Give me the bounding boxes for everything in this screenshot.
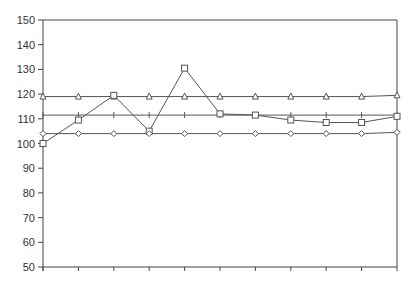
y-tick-label: 50 <box>23 261 35 273</box>
plot-frame <box>43 20 397 267</box>
square-marker-icon <box>182 65 188 71</box>
y-tick-label: 110 <box>17 113 35 125</box>
square-marker-icon <box>40 141 46 147</box>
y-tick-label: 60 <box>23 236 35 248</box>
square-marker-icon <box>359 120 365 126</box>
square-marker-icon <box>75 117 81 123</box>
y-tick-label: 80 <box>23 187 35 199</box>
square-marker-icon <box>217 111 223 117</box>
series-diamond <box>40 129 400 136</box>
diamond-marker-icon <box>394 129 400 135</box>
square-marker-icon <box>111 92 117 98</box>
diamond-marker-icon <box>182 131 188 137</box>
series-triangle <box>40 92 400 99</box>
square-marker-icon <box>394 113 400 119</box>
y-tick-label: 70 <box>23 212 35 224</box>
y-axis: 5060708090100110120130140150 <box>17 14 43 273</box>
diamond-marker-icon <box>288 131 294 137</box>
line-chart: 5060708090100110120130140150 <box>0 0 410 286</box>
y-tick-label: 100 <box>17 138 35 150</box>
square-marker-icon <box>288 117 294 123</box>
y-tick-label: 120 <box>17 88 35 100</box>
diamond-marker-icon <box>323 131 329 137</box>
series-group <box>40 65 400 146</box>
diamond-marker-icon <box>359 131 365 137</box>
diamond-marker-icon <box>40 131 46 137</box>
y-tick-label: 150 <box>17 14 35 26</box>
y-tick-label: 130 <box>17 63 35 75</box>
y-tick-label: 140 <box>17 39 35 51</box>
diamond-marker-icon <box>217 131 223 137</box>
diamond-marker-icon <box>111 131 117 137</box>
diamond-marker-icon <box>75 131 81 137</box>
x-axis <box>43 267 397 271</box>
square-marker-icon <box>323 120 329 126</box>
y-tick-label: 90 <box>23 162 35 174</box>
triangle-marker-icon <box>394 92 400 98</box>
diamond-marker-icon <box>252 131 258 137</box>
square-marker-icon <box>252 112 258 118</box>
